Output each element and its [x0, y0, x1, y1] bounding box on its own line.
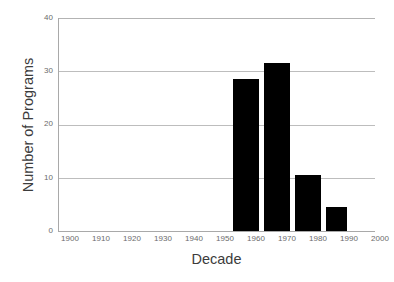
- y-tick-label: 10: [33, 174, 53, 182]
- x-tick-label: 1910: [84, 234, 118, 244]
- x-tick-label: 1940: [177, 234, 211, 244]
- x-axis-tick-labels: 1900 1910 1920 1930 1940 1950 1960 1970 …: [58, 234, 388, 246]
- bar-1980: [295, 175, 321, 231]
- gridline-40: [58, 18, 375, 19]
- x-tick-label: 1900: [53, 234, 87, 244]
- y-tick-label: 30: [33, 67, 53, 75]
- x-axis-line: [58, 231, 375, 232]
- plot-area: [58, 18, 375, 231]
- x-tick-label: 1990: [332, 234, 366, 244]
- gridline-10: [58, 178, 375, 179]
- x-tick-label: 2000: [363, 234, 394, 244]
- bar-1960: [233, 79, 259, 231]
- bar-1970: [264, 63, 290, 231]
- bar-1990: [326, 207, 347, 231]
- x-tick-label: 1960: [239, 234, 273, 244]
- x-tick-label: 1920: [115, 234, 149, 244]
- gridline-20: [58, 125, 375, 126]
- x-axis-title: Decade: [58, 251, 375, 267]
- y-axis-line: [58, 18, 59, 232]
- y-tick-label: 40: [33, 14, 53, 22]
- gridline-30: [58, 71, 375, 72]
- y-tick-label: 20: [33, 120, 53, 128]
- x-tick-label: 1980: [301, 234, 335, 244]
- x-tick-label: 1970: [270, 234, 304, 244]
- y-tick-label: 0: [33, 227, 53, 235]
- x-tick-label: 1930: [146, 234, 180, 244]
- x-tick-label: 1950: [208, 234, 242, 244]
